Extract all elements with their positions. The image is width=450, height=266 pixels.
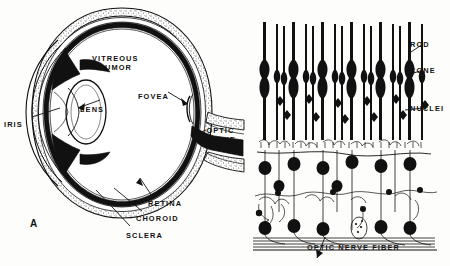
label-optic-nerve-fiber: OPTIC NERVE FIBER [307,243,400,252]
label-vitreous-humor-line2: HUMOR [92,63,139,72]
bipolar-nuclei [259,155,417,192]
label-lens: LENS [80,105,104,114]
label-optic-nerve: OPTIC NERVE [205,126,236,144]
panel-letter-a: A [30,218,37,229]
label-vitreous-humor: VITREOUS HUMOR [92,54,139,72]
label-optic-nerve-line2: NERVE [205,135,236,144]
panel-b-retina-layers: ROD CONE NUCLEI OPTIC NERVE FIBER [245,0,450,266]
ganglion-cells [259,219,417,236]
amacrine-cell-body [351,217,367,239]
label-vitreous-humor-line1: VITREOUS [92,54,139,63]
panel-a-eye-diagram: VITREOUS HUMOR FOVEA LENS IRIS OPTIC NER… [0,0,245,266]
eyeball-outer-coats [32,8,212,218]
label-rod: ROD [410,40,430,49]
label-nuclei: NUCLEI [410,104,444,113]
label-sclera: SCLERA [126,231,163,240]
outer-plexiform-layer [257,140,431,156]
label-fovea: FOVEA [138,92,169,101]
label-choroid: CHOROID [136,214,179,223]
photoreceptor-layer [259,22,429,140]
bipolar-cell-layer [259,150,417,230]
figure-root: VITREOUS HUMOR FOVEA LENS IRIS OPTIC NER… [0,0,450,266]
label-cone: CONE [410,66,436,75]
label-retina: RETINA [148,199,182,208]
label-optic-nerve-line1: OPTIC [205,126,236,135]
label-iris: IRIS [4,120,23,129]
